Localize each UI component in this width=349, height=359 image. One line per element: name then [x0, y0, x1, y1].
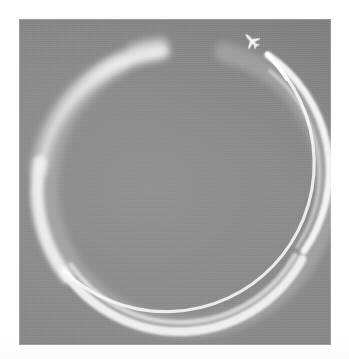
- page-root: [0, 0, 349, 359]
- contrail-core: [64, 56, 314, 312]
- photograph: [19, 19, 331, 345]
- contrail-loop: [37, 33, 329, 331]
- contrail-scene-svg: [19, 19, 331, 345]
